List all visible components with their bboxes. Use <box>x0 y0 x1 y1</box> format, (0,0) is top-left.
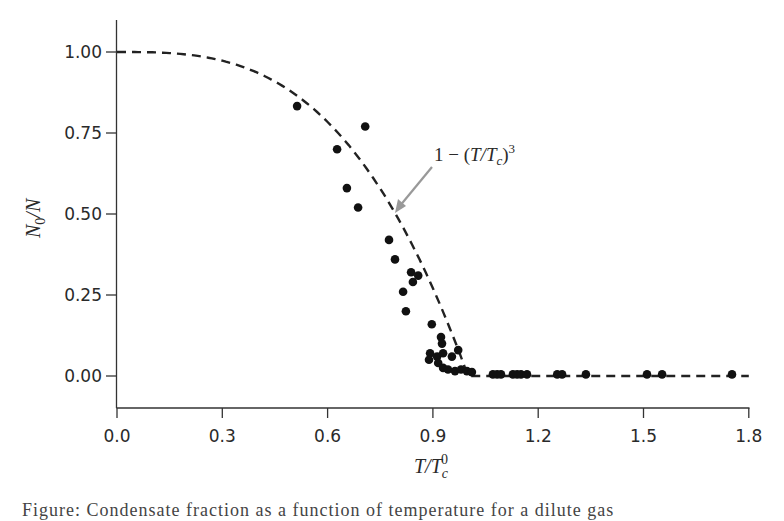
data-point <box>558 370 567 379</box>
x-ticks: 0.00.30.60.91.21.51.8 <box>103 408 762 446</box>
data-point <box>438 339 447 348</box>
figure-caption-clipped: Figure: Condensate fraction as a functio… <box>22 500 614 521</box>
y-tick-label: 1.00 <box>64 42 102 62</box>
data-point <box>414 271 423 280</box>
x-tick-label: 0.6 <box>314 426 341 446</box>
data-point <box>428 320 437 329</box>
data-point <box>402 307 411 316</box>
x-tick-label: 1.5 <box>630 426 657 446</box>
data-point <box>643 370 652 379</box>
data-point <box>399 288 408 297</box>
data-point <box>385 236 394 245</box>
y-ticks: 0.000.250.500.751.00 <box>64 42 116 386</box>
x-axis-label: T/Tc0 <box>414 452 449 481</box>
x-tick-label: 1.2 <box>525 426 552 446</box>
y-tick-label: 0.00 <box>64 366 102 386</box>
data-point <box>333 145 342 154</box>
x-tick-label: 0.9 <box>419 426 446 446</box>
annotation-arrow <box>395 167 432 213</box>
y-axis-label: N0/N <box>22 197 48 239</box>
data-point <box>354 203 363 212</box>
y-tick-label: 0.50 <box>64 204 102 224</box>
data-point <box>448 352 457 361</box>
data-point <box>728 370 737 379</box>
data-point <box>439 349 448 358</box>
axes <box>117 20 750 408</box>
annotation-label: 1 − (T/Tc)3 <box>434 141 515 168</box>
data-point <box>468 368 477 377</box>
data-point <box>454 346 463 355</box>
data-point <box>343 184 352 193</box>
data-point <box>391 255 400 264</box>
data-point <box>361 122 370 131</box>
data-point <box>293 102 302 111</box>
x-tick-label: 0.3 <box>209 426 236 446</box>
y-tick-label: 0.25 <box>64 285 102 305</box>
data-point <box>658 370 667 379</box>
x-tick-label: 0.0 <box>103 426 130 446</box>
x-tick-label: 1.8 <box>735 426 762 446</box>
data-point <box>523 370 532 379</box>
y-tick-label: 0.75 <box>64 123 102 143</box>
data-point <box>497 370 506 379</box>
data-point <box>582 370 591 379</box>
data-point <box>425 356 434 365</box>
